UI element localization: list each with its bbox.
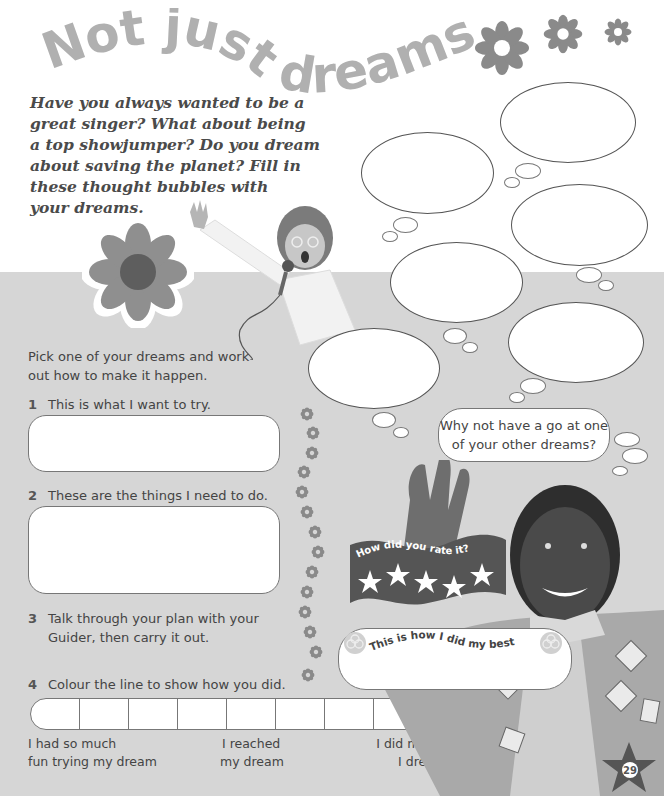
- thought-bubble-tail: [393, 217, 418, 233]
- small-flower-icon: [300, 505, 314, 519]
- scale-cell[interactable]: [80, 699, 129, 729]
- small-flower-icon: [311, 545, 325, 559]
- step-number: 2: [28, 486, 48, 505]
- flower-icon: [474, 20, 530, 76]
- step-number: 3: [28, 609, 48, 628]
- big-flower-illustration: [82, 216, 194, 328]
- small-flower-icon: [306, 426, 320, 440]
- label-line: fun trying my dream: [28, 753, 157, 771]
- scale-cell[interactable]: [325, 699, 374, 729]
- small-flower-icon: [308, 525, 322, 539]
- step-number: 1: [28, 395, 48, 414]
- small-flower-icon: [300, 585, 314, 599]
- callout-line: of your other dreams?: [439, 435, 609, 454]
- step-number: 4: [28, 675, 48, 694]
- svg-text:This is how I did my best: This is how I did my best: [368, 629, 516, 653]
- intro-line: great singer? What about being: [30, 113, 330, 134]
- thought-bubble-tail: [443, 328, 467, 344]
- small-flower-icon: [305, 565, 319, 579]
- intro-line: these thought bubbles with: [30, 176, 330, 197]
- thought-bubble-1[interactable]: [500, 82, 636, 163]
- thought-bubble-6[interactable]: [308, 328, 440, 409]
- small-flower-icon: [309, 645, 323, 659]
- scale-cell[interactable]: [227, 699, 276, 729]
- small-flower-icon: [303, 625, 317, 639]
- small-flower-icon: [300, 407, 314, 421]
- svg-text:Not just dreams...: Not just dreams...: [40, 8, 483, 106]
- step-text: Colour the line to show how you did.: [48, 677, 286, 692]
- thought-bubble-tail: [372, 412, 396, 428]
- activity-instruction: Pick one of your dreams and work out how…: [28, 347, 298, 385]
- step-1-answer-box[interactable]: [28, 415, 280, 472]
- trefoil-badge-icon: [539, 631, 563, 655]
- step-2-answer-box[interactable]: [28, 506, 280, 594]
- thought-bubble-tail: [504, 177, 520, 188]
- thought-bubble-3[interactable]: [511, 184, 648, 266]
- instruction-line: Pick one of your dreams and work: [28, 347, 298, 366]
- thought-bubble-tail: [576, 267, 602, 283]
- small-flower-icon: [298, 605, 312, 619]
- svg-text:29: 29: [623, 765, 637, 776]
- thought-bubble-2[interactable]: [361, 132, 494, 214]
- thought-bubble-5[interactable]: [508, 302, 644, 383]
- thought-bubble-tail: [515, 163, 541, 179]
- thought-bubble-tail: [462, 342, 478, 353]
- speech-bubble-tail: [612, 466, 628, 476]
- callout-line: Why not have a go at one: [439, 416, 609, 435]
- flower-icon: [604, 18, 632, 46]
- label-line: my dream: [220, 753, 284, 771]
- scale-cell[interactable]: [129, 699, 178, 729]
- step-text: Guider, then carry it out.: [28, 628, 259, 647]
- intro-line: Have you always wanted to be a: [30, 92, 330, 113]
- speech-bubble-tail: [614, 432, 640, 447]
- thought-bubble-tail: [598, 280, 614, 291]
- intro-line: a top showjumper? Do you dream: [30, 134, 330, 155]
- step-text: Talk through your plan with your: [48, 611, 259, 626]
- step-4-label: 4Colour the line to show how you did.: [28, 675, 286, 694]
- label-line: I had so much: [28, 735, 157, 753]
- thought-bubble-tail: [382, 231, 398, 242]
- page-number-badge: 29: [600, 740, 658, 794]
- thought-bubble-tail: [520, 378, 546, 394]
- label-line: I reached: [220, 735, 284, 753]
- step-1-label: 1This is what I want to try.: [28, 395, 211, 414]
- scale-label-middle: I reached my dream: [220, 735, 284, 771]
- scale-cell[interactable]: [178, 699, 227, 729]
- thought-bubble-tail: [509, 392, 525, 403]
- speech-bubble-tail: [622, 448, 648, 464]
- step-3-label: 3Talk through your plan with your Guider…: [28, 609, 259, 647]
- scale-cell[interactable]: [276, 699, 325, 729]
- thought-bubble-4[interactable]: [390, 242, 523, 323]
- step-text: These are the things I need to do.: [48, 488, 268, 503]
- best-effort-label: This is how I did my best: [367, 629, 539, 659]
- instruction-line: out how to make it happen.: [28, 366, 298, 385]
- why-not-callout: Why not have a go at one of your other d…: [438, 408, 610, 462]
- trefoil-badge-icon: [343, 631, 367, 655]
- scale-cell[interactable]: [31, 699, 80, 729]
- rating-banner: How did you rate it?: [348, 525, 508, 607]
- best-effort-box[interactable]: This is how I did my best: [338, 628, 572, 690]
- small-flower-icon: [295, 485, 309, 499]
- small-flower-icon: [297, 465, 311, 479]
- step-text: This is what I want to try.: [48, 397, 211, 412]
- scale-label-left: I had so much fun trying my dream: [28, 735, 157, 771]
- small-flower-icon: [301, 668, 315, 682]
- intro-line: about saving the planet? Fill in: [30, 155, 330, 176]
- thought-bubble-tail: [393, 427, 409, 438]
- flower-icon: [543, 14, 583, 54]
- small-flower-icon: [305, 446, 319, 460]
- flower-column: [290, 405, 326, 695]
- step-2-label: 2These are the things I need to do.: [28, 486, 268, 505]
